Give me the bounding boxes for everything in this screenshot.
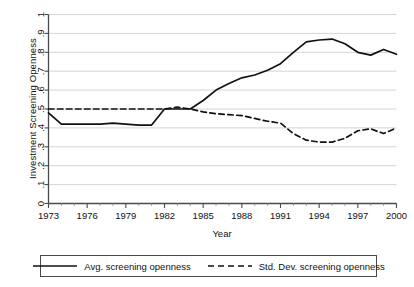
legend-label-avg: Avg. screening openness (84, 261, 191, 272)
legend-swatch-solid (32, 261, 78, 271)
data-series (49, 39, 397, 142)
svg-text:1: 1 (35, 12, 46, 17)
svg-text:1973: 1973 (38, 210, 59, 221)
legend-item-stddev: Std. Dev. screening openness (199, 261, 393, 272)
svg-text:1988: 1988 (231, 210, 252, 221)
chart-legend: Avg. screening openness Std. Dev. screen… (40, 255, 377, 277)
svg-text:1991: 1991 (270, 210, 291, 221)
svg-text:1985: 1985 (193, 210, 214, 221)
svg-text:.5: .5 (35, 105, 46, 113)
x-axis: 1973197619791982198519881991199419972000 (38, 204, 407, 221)
svg-text:1997: 1997 (347, 210, 368, 221)
svg-text:2000: 2000 (386, 210, 407, 221)
legend-swatch-dashed (207, 261, 253, 271)
chart-figure: Investment Screening Openness 0.1.2.3.4.… (0, 0, 414, 287)
svg-text:1982: 1982 (154, 210, 175, 221)
legend-label-stddev: Std. Dev. screening openness (259, 261, 385, 272)
svg-text:1979: 1979 (115, 210, 136, 221)
y-axis: 0.1.2.3.4.5.6.7.8.91 (35, 12, 49, 206)
svg-text:.9: .9 (35, 29, 46, 37)
svg-text:1976: 1976 (77, 210, 98, 221)
legend-item-avg: Avg. screening openness (24, 261, 199, 272)
svg-text:0: 0 (35, 201, 46, 206)
plot-area: 0.1.2.3.4.5.6.7.8.91 1973197619791982198… (0, 0, 414, 240)
svg-text:.4: .4 (35, 124, 46, 132)
svg-text:.2: .2 (35, 162, 46, 170)
svg-text:.1: .1 (35, 181, 46, 189)
svg-text:.7: .7 (35, 67, 46, 75)
x-axis-title: Year (48, 228, 396, 239)
svg-text:.8: .8 (35, 48, 46, 56)
svg-text:1994: 1994 (309, 210, 330, 221)
svg-text:.6: .6 (35, 86, 46, 94)
svg-text:.3: .3 (35, 143, 46, 151)
